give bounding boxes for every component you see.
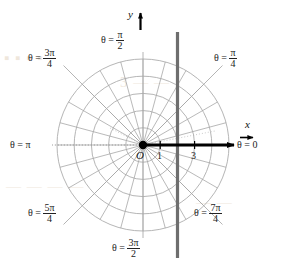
- angle-label-theta-pi-2: θ = π 2: [101, 30, 124, 51]
- angle-label-theta-3pi-2: θ = 3π 2: [112, 238, 140, 259]
- angle-label-theta-pi: θ = π: [10, 140, 31, 150]
- angle-label-theta-0: θ = 0: [237, 140, 257, 150]
- x-tick-label-1: 1: [157, 150, 162, 161]
- angle-eq-text: θ =: [112, 242, 125, 253]
- angle-eq-text: θ =: [194, 207, 207, 218]
- fraction-numerator: π: [116, 30, 123, 40]
- fraction-numerator: 7π: [209, 203, 221, 213]
- polar-diagram-figure: ▪ ▪ ▪ ▪ 3 — — — — — — — —: [0, 0, 288, 272]
- angle-value-text: π: [25, 139, 30, 150]
- fraction-numerator: 5π: [43, 203, 55, 213]
- angle-eq-text: θ =: [237, 139, 250, 150]
- angle-label-theta-7pi-4: θ = 7π 4: [194, 203, 222, 224]
- fraction-denominator: 2: [127, 248, 139, 259]
- origin-label: O: [136, 149, 144, 161]
- angle-eq-text: θ =: [28, 207, 41, 218]
- fraction: 3π 4: [43, 48, 55, 69]
- fraction: 3π 2: [127, 238, 139, 259]
- fraction-numerator: π: [229, 48, 236, 58]
- y-axis-label: y: [128, 8, 133, 20]
- angle-eq-text: θ =: [10, 139, 23, 150]
- angle-label-theta-pi-4: θ = π 4: [214, 48, 237, 69]
- x-tick-label-3: 3: [191, 150, 196, 161]
- angle-label-theta-5pi-4: θ = 5π 4: [28, 203, 56, 224]
- fraction-numerator: 3π: [43, 48, 55, 58]
- angle-eq-text: θ =: [214, 52, 227, 63]
- fraction: 7π 4: [209, 203, 221, 224]
- origin-point: [139, 141, 147, 149]
- diagram-canvas: [0, 0, 288, 272]
- fraction: π 4: [229, 48, 236, 69]
- fraction-denominator: 2: [116, 40, 123, 51]
- angle-value-text: 0: [252, 139, 257, 150]
- fraction: 5π 4: [43, 203, 55, 224]
- x-axis-label: x: [245, 118, 250, 130]
- fraction-numerator: 3π: [127, 238, 139, 248]
- angle-eq-text: θ =: [101, 34, 114, 45]
- fraction-denominator: 4: [209, 213, 221, 224]
- fraction-denominator: 4: [43, 213, 55, 224]
- angle-label-theta-3pi-4: θ = 3π 4: [28, 48, 56, 69]
- angle-eq-text: θ =: [28, 52, 41, 63]
- fraction-denominator: 4: [43, 58, 55, 69]
- fraction-denominator: 4: [229, 58, 236, 69]
- fraction: π 2: [116, 30, 123, 51]
